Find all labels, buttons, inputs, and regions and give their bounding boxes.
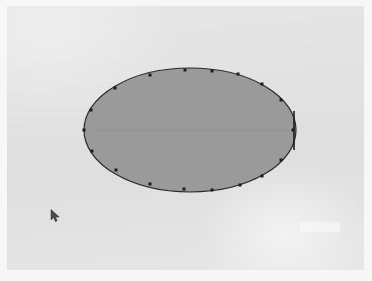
node-left-handle[interactable] [83, 129, 86, 132]
node-right-upper-handle[interactable] [280, 99, 283, 102]
node-upper-right-handle[interactable] [261, 83, 264, 86]
node-upper-left-handle[interactable] [114, 87, 117, 90]
node-top-right-handle[interactable] [237, 73, 240, 76]
node-bottom-right-handle[interactable] [239, 184, 242, 187]
node-bottom-left-handle[interactable] [149, 183, 152, 186]
vector-artwork-layer[interactable] [0, 0, 372, 281]
node-lower-left-outer-handle[interactable] [91, 150, 94, 153]
screenshot-root [0, 0, 372, 281]
node-top-left-handle[interactable] [149, 74, 152, 77]
node-bottom-mid-handle[interactable] [183, 188, 186, 191]
scan-highlight [300, 222, 340, 232]
node-bottom-handle[interactable] [211, 189, 214, 192]
node-right-lower-handle[interactable] [280, 159, 283, 162]
node-upper-left-outer-handle[interactable] [90, 109, 93, 112]
node-lower-right-handle[interactable] [261, 175, 264, 178]
node-top-handle[interactable] [184, 69, 187, 72]
node-top-mid-handle[interactable] [211, 70, 214, 73]
node-lower-left-handle[interactable] [115, 169, 118, 172]
